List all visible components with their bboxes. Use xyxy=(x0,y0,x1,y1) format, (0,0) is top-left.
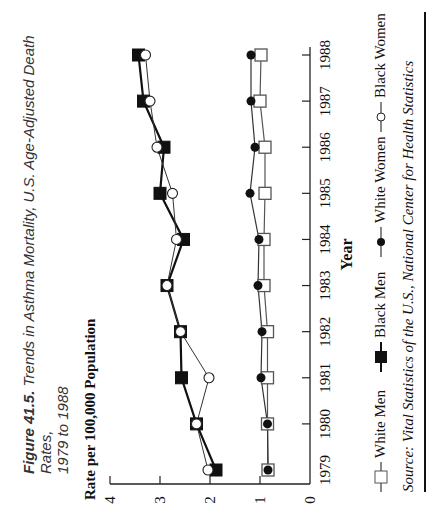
legend-item-black-women: Black Women xyxy=(372,13,389,132)
line-chart: 0123419791980198119821983198419851986198… xyxy=(0,0,433,528)
data-point-white-women xyxy=(257,373,266,382)
filled-square-marker-icon xyxy=(373,342,389,372)
data-point-white-men xyxy=(259,187,271,199)
data-point-white-women xyxy=(247,51,256,60)
x-tick-label: 1980 xyxy=(317,409,333,439)
legend-item-white-women: White Women xyxy=(372,137,389,257)
legend-item-black-men: Black Men xyxy=(372,272,389,372)
series-line-white-men xyxy=(260,55,268,470)
x-tick-label: 1982 xyxy=(317,317,333,347)
x-tick-label: 1983 xyxy=(317,271,333,301)
data-point-white-men xyxy=(254,95,266,107)
data-point-black-women xyxy=(162,281,172,291)
x-tick-label: 1985 xyxy=(317,178,333,208)
open-circle-marker-icon xyxy=(373,102,389,132)
data-point-white-women xyxy=(251,143,260,152)
data-point-white-women xyxy=(246,189,255,198)
open-square-marker-icon xyxy=(373,462,389,492)
data-point-white-men xyxy=(255,49,267,61)
data-point-white-women xyxy=(264,466,273,475)
data-point-white-women xyxy=(255,235,264,244)
legend: White MenBlack MenWhite WomenBlack Women xyxy=(372,12,392,492)
legend-label: Black Women xyxy=(372,13,389,98)
data-point-black-women xyxy=(192,419,202,429)
x-tick-label: 1987 xyxy=(317,86,333,117)
data-point-white-women xyxy=(254,281,263,290)
x-tick-label: 1979 xyxy=(317,455,333,485)
data-point-white-women xyxy=(263,419,272,428)
y-tick-label: 2 xyxy=(202,496,218,504)
data-point-black-men xyxy=(176,372,188,384)
series-line-black-women xyxy=(146,55,210,470)
x-axis-title: Year xyxy=(338,239,355,271)
y-tick-label: 4 xyxy=(102,496,118,504)
bottom-rule xyxy=(424,12,426,492)
legend-item-white-men: White Men xyxy=(372,390,389,492)
data-point-white-women xyxy=(258,327,267,336)
series-line-white-women xyxy=(250,55,268,470)
source-note: Source: Vital Statistics of the U.S., Na… xyxy=(400,61,417,492)
y-tick-label: 3 xyxy=(152,496,168,504)
rotated-figure-page: Figure 41.5. Trends in Asthma Mortality,… xyxy=(0,0,433,528)
x-tick-label: 1984 xyxy=(317,224,333,255)
series-line-black-men xyxy=(139,55,217,470)
data-point-white-men xyxy=(259,141,271,153)
data-point-black-women xyxy=(176,327,186,337)
x-tick-label: 1981 xyxy=(317,363,333,393)
legend-label: Black Men xyxy=(372,272,389,338)
data-point-white-women xyxy=(247,97,256,106)
x-tick-label: 1988 xyxy=(317,40,333,70)
filled-circle-marker-icon xyxy=(373,227,389,257)
data-point-black-women xyxy=(204,373,214,383)
data-point-black-women xyxy=(203,465,213,475)
y-tick-label: 0 xyxy=(302,496,318,504)
data-point-black-men xyxy=(154,187,166,199)
y-tick-label: 1 xyxy=(252,496,268,504)
data-point-black-women xyxy=(172,234,182,244)
legend-label: White Men xyxy=(372,390,389,458)
x-tick-label: 1986 xyxy=(317,132,333,163)
legend-label: White Women xyxy=(372,137,389,223)
data-point-black-women xyxy=(145,96,155,106)
data-point-black-women xyxy=(152,142,162,152)
data-point-black-women xyxy=(141,50,151,60)
data-point-black-women xyxy=(168,188,178,198)
